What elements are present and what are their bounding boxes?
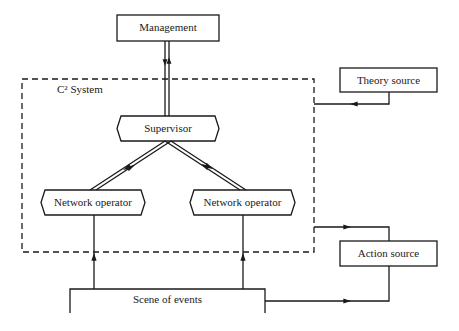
diagram-canvas: [0, 0, 459, 331]
arrow-up-icon: [168, 59, 171, 63]
system-boundary: [22, 79, 314, 252]
theory-source-label: Theory source: [340, 75, 437, 86]
management-label: Management: [117, 22, 219, 33]
arrow-up-icon: [241, 255, 244, 260]
edge-theory-system: [314, 92, 389, 104]
system-label: C² System: [57, 84, 103, 95]
scene-of-events-label: Scene of events: [70, 294, 265, 305]
network-operator-right-label: Network operator: [190, 197, 295, 208]
arrow-up-icon: [92, 255, 95, 260]
edge-supervisor-operator-left: [90, 141, 171, 190]
edge-scene-action: [265, 266, 389, 301]
arrow-right-icon: [344, 225, 349, 228]
arrow-icon: [128, 166, 133, 170]
arrow-right-icon: [344, 299, 349, 302]
supervisor-label: Supervisor: [117, 123, 219, 134]
edge-system-action: [314, 227, 389, 241]
arrow-left-icon: [352, 102, 357, 105]
arrow-down-icon: [164, 60, 167, 64]
action-source-label: Action source: [340, 248, 437, 259]
network-operator-left-label: Network operator: [41, 197, 145, 208]
